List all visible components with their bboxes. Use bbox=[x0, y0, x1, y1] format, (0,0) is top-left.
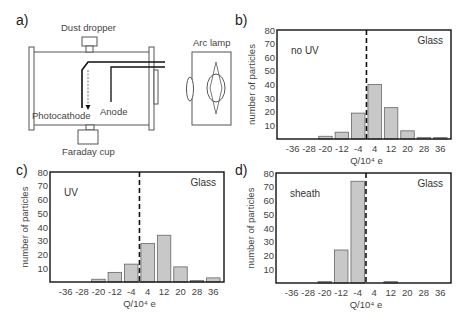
histogram-bar bbox=[335, 132, 348, 139]
x-tick-label: -4 bbox=[354, 143, 362, 154]
material-annotation: Glass bbox=[190, 177, 216, 188]
y-tick-label: 80 bbox=[264, 25, 275, 36]
x-tick-label: 28 bbox=[192, 286, 203, 297]
y-tick-label: 40 bbox=[264, 79, 275, 90]
anode-label: Anode bbox=[100, 106, 127, 117]
x-tick-label: 12 bbox=[159, 286, 170, 297]
y-tick-label: 40 bbox=[37, 222, 48, 233]
x-tick-label: -28 bbox=[75, 286, 89, 297]
x-tick-label: 36 bbox=[208, 286, 219, 297]
histogram-bar bbox=[384, 108, 397, 139]
faraday-cup-label: Faraday cup bbox=[62, 146, 115, 157]
x-tick-label: 28 bbox=[419, 143, 430, 154]
y-tick-label: 40 bbox=[263, 223, 274, 234]
histogram-bar bbox=[125, 264, 138, 282]
histogram-no-uv: -36-28-20-12-44122028361020304050607080n… bbox=[243, 24, 455, 167]
x-tick-label: -20 bbox=[318, 287, 332, 298]
y-tick-label: 20 bbox=[263, 250, 274, 261]
x-tick-label: 28 bbox=[418, 287, 429, 298]
x-tick-label: -4 bbox=[127, 286, 135, 297]
condition-annotation: no UV bbox=[291, 45, 319, 56]
x-tick-label: -12 bbox=[334, 287, 348, 298]
dust-dropper-label: Dust dropper bbox=[61, 22, 116, 33]
y-tick-label: 60 bbox=[37, 194, 48, 205]
x-tick-label: -20 bbox=[319, 143, 333, 154]
x-tick-label: -28 bbox=[301, 287, 315, 298]
y-tick-label: 50 bbox=[37, 208, 48, 219]
histogram-bar bbox=[174, 267, 187, 282]
y-tick-label: 20 bbox=[264, 106, 275, 117]
x-tick-label: 36 bbox=[435, 143, 446, 154]
histogram-bar bbox=[108, 272, 121, 282]
x-axis-label: Q/10⁴ e bbox=[350, 299, 383, 310]
histogram-bar bbox=[334, 250, 348, 283]
x-tick-label: 20 bbox=[175, 286, 186, 297]
histogram-plot-area: -36-28-20-12-44122028361020304050607080n… bbox=[16, 166, 228, 310]
y-axis-label: number of particles bbox=[245, 187, 256, 268]
histogram-bar bbox=[351, 181, 365, 283]
x-axis-label: Q/10⁴ e bbox=[123, 298, 156, 309]
y-tick-label: 10 bbox=[37, 263, 48, 274]
y-tick-label: 80 bbox=[37, 167, 48, 178]
x-tick-label: -20 bbox=[92, 286, 106, 297]
x-tick-label: -36 bbox=[285, 287, 299, 298]
x-tick-label: -12 bbox=[108, 286, 122, 297]
x-axis-label: Q/10⁴ e bbox=[350, 155, 383, 166]
y-tick-label: 20 bbox=[37, 249, 48, 260]
x-tick-label: 12 bbox=[385, 287, 396, 298]
material-annotation: Glass bbox=[417, 178, 443, 189]
x-tick-label: 12 bbox=[386, 143, 397, 154]
histogram-uv: -36-28-20-12-44122028361020304050607080n… bbox=[16, 166, 228, 310]
y-tick-label: 50 bbox=[263, 209, 274, 220]
x-tick-label: 4 bbox=[372, 143, 377, 154]
x-tick-label: 20 bbox=[402, 287, 413, 298]
y-tick-label: 30 bbox=[263, 236, 274, 247]
x-tick-label: -4 bbox=[353, 287, 361, 298]
y-tick-label: 70 bbox=[264, 38, 275, 49]
y-tick-label: 60 bbox=[264, 52, 275, 63]
histogram-sheath: -36-28-20-12-44122028361020304050607080n… bbox=[242, 167, 455, 311]
histogram-bar bbox=[352, 113, 365, 139]
y-tick-label: 70 bbox=[37, 180, 48, 191]
x-tick-label: 4 bbox=[145, 286, 150, 297]
x-tick-label: 20 bbox=[402, 143, 413, 154]
arc-lamp-label: Arc lamp bbox=[193, 37, 230, 48]
condition-annotation: UV bbox=[64, 187, 78, 198]
apparatus-drawing bbox=[0, 0, 240, 160]
histogram-plot-area: -36-28-20-12-44122028361020304050607080n… bbox=[243, 24, 455, 167]
x-tick-label: -28 bbox=[302, 143, 316, 154]
y-tick-label: 50 bbox=[264, 65, 275, 76]
histogram-bar bbox=[401, 131, 414, 139]
y-tick-label: 30 bbox=[37, 235, 48, 246]
y-axis-label: number of particles bbox=[19, 186, 30, 267]
y-tick-label: 10 bbox=[264, 120, 275, 131]
histogram-bar bbox=[157, 235, 170, 282]
x-tick-label: -12 bbox=[335, 143, 349, 154]
y-axis-label: number of particles bbox=[246, 44, 257, 125]
y-tick-label: 70 bbox=[263, 181, 274, 192]
condition-annotation: sheath bbox=[290, 188, 320, 199]
x-tick-label: -36 bbox=[59, 286, 73, 297]
y-tick-label: 80 bbox=[263, 168, 274, 179]
material-annotation: Glass bbox=[417, 35, 443, 46]
y-tick-label: 60 bbox=[263, 195, 274, 206]
y-tick-label: 10 bbox=[263, 264, 274, 275]
photocathode-label: Photocathode bbox=[32, 110, 91, 121]
x-tick-label: 36 bbox=[435, 287, 446, 298]
y-tick-label: 30 bbox=[264, 93, 275, 104]
x-tick-label: -36 bbox=[286, 143, 300, 154]
histogram-bar bbox=[141, 244, 154, 283]
x-tick-label: 4 bbox=[372, 287, 377, 298]
histogram-bar bbox=[368, 85, 381, 140]
histogram-plot-area: -36-28-20-12-44122028361020304050607080n… bbox=[242, 167, 455, 311]
